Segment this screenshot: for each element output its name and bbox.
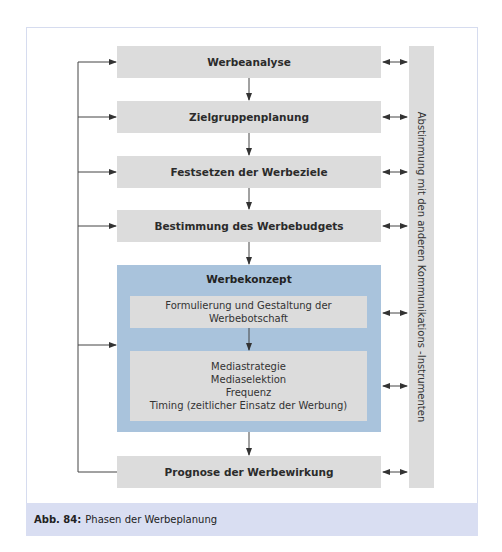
figure-caption: Abb. 84: Phasen der Werbeplanung <box>26 503 478 536</box>
caption-text: Phasen der Werbeplanung <box>85 514 217 525</box>
caption-number: Abb. 84: <box>34 514 81 525</box>
connector-lines <box>0 0 502 552</box>
